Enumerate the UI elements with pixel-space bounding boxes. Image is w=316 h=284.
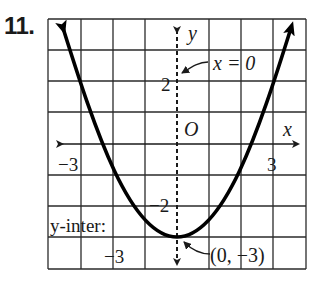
vertex-label: (0, −3) — [210, 244, 265, 267]
x-axis-label: x — [282, 118, 292, 140]
axis-of-symmetry-pointer-icon — [182, 62, 208, 73]
origin-label: O — [184, 118, 198, 140]
tick-label-x-neg3: −3 — [58, 154, 78, 175]
y-axis-label: y — [186, 22, 197, 45]
tick-label-y-2: 2 — [161, 74, 171, 95]
tick-label-y-neg2: −2 — [149, 195, 169, 216]
y-intercept-value: −3 — [104, 246, 124, 267]
parabola-graph: y x O −3 3 2 −2 x = 0 y-inter: −3 (0, −3… — [0, 0, 316, 284]
tick-label-x-3: 3 — [267, 154, 277, 175]
axis-of-symmetry-label: x = 0 — [212, 52, 255, 74]
y-intercept-label: y-inter: — [50, 215, 106, 236]
vertex-pointer-icon — [184, 242, 210, 254]
